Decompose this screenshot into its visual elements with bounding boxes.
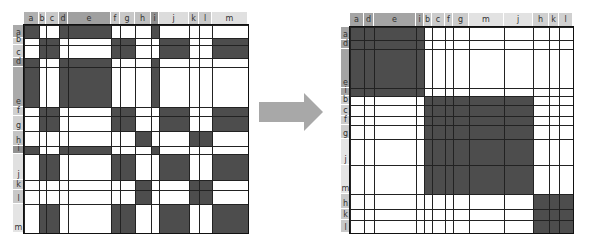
column-header: b: [424, 13, 432, 27]
column-header: g: [453, 13, 469, 27]
matrix-frame: [349, 26, 574, 234]
column-header: d: [364, 13, 374, 27]
column-header: i: [416, 13, 424, 27]
column-header: e: [374, 13, 416, 27]
column-header: l: [559, 13, 573, 27]
column-header: a: [350, 13, 364, 27]
column-header: h: [533, 13, 549, 27]
column-header: c: [432, 13, 445, 27]
transform-arrow-icon: [258, 92, 324, 132]
column-header: j: [504, 13, 533, 27]
column-header: k: [549, 13, 559, 27]
column-header: f: [445, 13, 453, 27]
column-header: m: [469, 13, 504, 27]
